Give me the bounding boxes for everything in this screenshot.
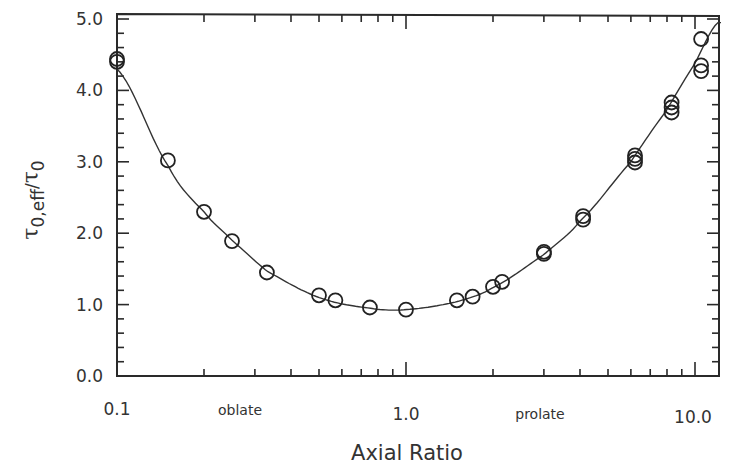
y-tick-label: 5.0 bbox=[76, 9, 103, 29]
x-axis-title: Axial Ratio bbox=[351, 441, 463, 465]
y-tick-label: 1.0 bbox=[76, 295, 103, 315]
data-point-circle bbox=[576, 209, 590, 223]
x-tick-label: 0.1 bbox=[103, 399, 130, 419]
chart: 0.0 1.0 2.0 3.0 4.0 5.0 0.1 1.0 10.0 obl… bbox=[0, 0, 730, 470]
x-tick-label: 10.0 bbox=[674, 407, 712, 427]
y-title-sub: 0,eff bbox=[28, 188, 48, 228]
y-title-sub2: 0 bbox=[28, 160, 48, 171]
axes-box bbox=[117, 14, 719, 376]
data-point-circle bbox=[576, 213, 590, 227]
y-title-tau2: τ bbox=[18, 171, 43, 183]
y-tick-label: 4.0 bbox=[76, 80, 103, 100]
data-points bbox=[110, 32, 708, 317]
x-tick-labels: 0.1 1.0 10.0 bbox=[103, 399, 711, 427]
oblate-label: oblate bbox=[218, 402, 262, 418]
prolate-label: prolate bbox=[515, 406, 564, 422]
x-tick-label: 1.0 bbox=[392, 404, 419, 424]
axis-ticks bbox=[117, 15, 719, 376]
y-title-tau: τ bbox=[18, 227, 43, 239]
fit-line bbox=[117, 23, 721, 311]
plot-frame bbox=[117, 14, 719, 376]
data-point-circle bbox=[694, 32, 708, 46]
data-point-circle bbox=[260, 266, 274, 280]
data-point-circle bbox=[328, 293, 342, 307]
y-tick-label: 2.0 bbox=[76, 223, 103, 243]
y-tick-label: 0.0 bbox=[76, 366, 103, 386]
y-axis-title: τ0,eff/τ0 bbox=[18, 160, 48, 239]
y-tick-labels: 0.0 1.0 2.0 3.0 4.0 5.0 bbox=[76, 9, 103, 386]
svg-text:τ0,eff/τ0: τ0,eff/τ0 bbox=[18, 160, 48, 239]
y-tick-label: 3.0 bbox=[76, 152, 103, 172]
data-point-circle bbox=[628, 152, 642, 166]
fit-curve bbox=[117, 23, 721, 311]
